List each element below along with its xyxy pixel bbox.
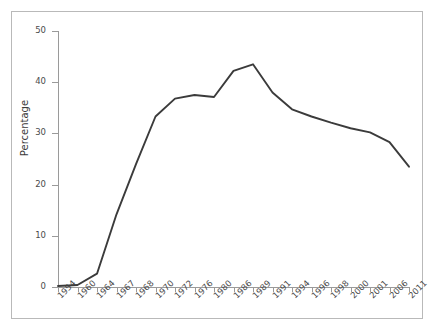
data-series-line <box>0 0 436 335</box>
chart-figure: Percentage 01020304050 19541960196419671… <box>0 0 436 335</box>
